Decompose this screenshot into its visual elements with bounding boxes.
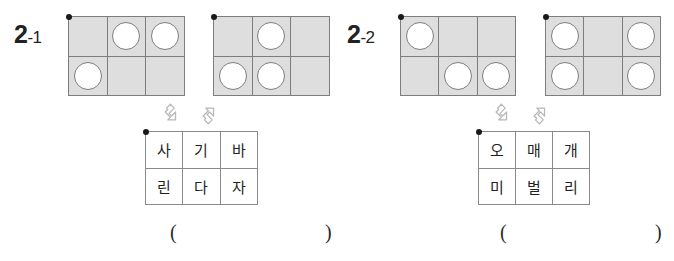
grid-cell <box>291 57 329 96</box>
question-number: 2 <box>14 20 27 48</box>
grid-cell <box>214 57 252 96</box>
grid-cell <box>108 17 146 56</box>
word-grid-2-2: 오 매 개 미 벌 리 <box>478 131 590 205</box>
circle-icon <box>151 22 179 50</box>
word-cell: 린 <box>146 169 182 205</box>
corner-dot-icon <box>211 14 217 20</box>
word-cell: 벌 <box>516 169 552 205</box>
corner-dot-icon <box>543 14 549 20</box>
word-cell: 오 <box>479 132 515 168</box>
circle-icon <box>219 62 247 90</box>
grid-cell <box>291 17 329 56</box>
word-grid-2-1: 사 기 바 린 다 자 <box>145 131 258 205</box>
question-suffix: -1 <box>27 28 41 47</box>
word-cell: 자 <box>221 169 257 205</box>
circle-icon <box>406 22 434 50</box>
answer-paren-open: ( <box>170 222 177 242</box>
circle-icon <box>257 22 285 50</box>
circle-grid-d <box>545 16 661 96</box>
grid-cell <box>623 17 660 56</box>
circle-icon <box>627 62 655 90</box>
grid-cell <box>214 17 252 56</box>
corner-dot-icon <box>398 14 404 20</box>
grid-cell <box>108 57 146 96</box>
circle-icon <box>482 62 510 90</box>
grid-cell <box>623 57 660 96</box>
corner-dot-icon <box>66 14 72 20</box>
word-cell: 다 <box>183 169 219 205</box>
word-cell: 사 <box>146 132 182 168</box>
circle-icon <box>444 62 472 90</box>
grid-cell <box>69 57 107 96</box>
grid-cell <box>253 57 291 96</box>
question-label-2-2: 2-2 <box>347 22 375 47</box>
word-cell: 미 <box>479 169 515 205</box>
grid-cell <box>146 17 184 56</box>
circle-grid-b <box>213 16 330 96</box>
word-cell: 기 <box>183 132 219 168</box>
arrow-up-right-icon <box>198 103 220 125</box>
circle-icon <box>257 62 285 90</box>
circle-icon <box>74 62 102 90</box>
arrow-down-right-icon <box>491 103 513 125</box>
grid-cell <box>439 17 476 56</box>
grid-cell <box>584 17 621 56</box>
question-number: 2 <box>347 20 360 48</box>
arrow-down-right-icon <box>160 103 182 125</box>
arrow-up-right-icon <box>529 103 551 125</box>
answer-paren-open: ( <box>500 222 507 242</box>
grid-cell <box>439 57 476 96</box>
corner-dot-icon <box>476 129 482 135</box>
question-suffix: -2 <box>360 28 374 47</box>
circle-icon <box>627 22 655 50</box>
circle-icon <box>112 22 140 50</box>
word-cell: 매 <box>516 132 552 168</box>
corner-dot-icon <box>143 129 149 135</box>
word-cell: 바 <box>221 132 257 168</box>
word-cell: 리 <box>553 169 589 205</box>
grid-cell <box>584 57 621 96</box>
grid-cell <box>546 17 583 56</box>
answer-paren-close: ) <box>325 222 332 242</box>
circle-icon <box>551 62 579 90</box>
grid-cell <box>69 17 107 56</box>
grid-cell <box>401 57 438 96</box>
grid-cell <box>146 57 184 96</box>
question-label-2-1: 2-1 <box>14 22 42 47</box>
grid-cell <box>253 17 291 56</box>
circle-grid-a <box>68 16 185 96</box>
grid-cell <box>478 17 515 56</box>
grid-cell <box>401 17 438 56</box>
circle-icon <box>551 22 579 50</box>
word-cell: 개 <box>553 132 589 168</box>
grid-cell <box>546 57 583 96</box>
grid-cell <box>478 57 515 96</box>
answer-paren-close: ) <box>655 222 662 242</box>
circle-grid-c <box>400 16 516 96</box>
